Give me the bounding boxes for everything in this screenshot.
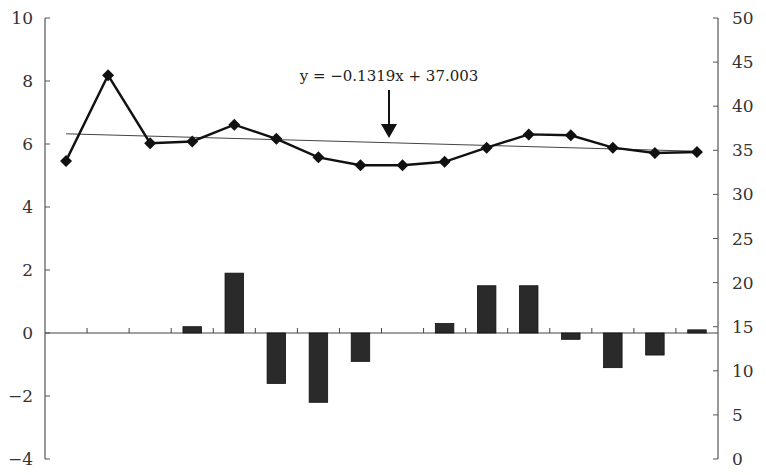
diamond-marker-icon [565,129,577,141]
arrow-down-icon [381,124,397,138]
bar [351,333,370,361]
right-axis-tick-label: 35 [732,140,754,160]
bar [267,333,286,383]
right-axis-tick-label: 25 [732,229,754,249]
left-axis-tick-label: 2 [22,260,33,280]
combo-chart: 1086420−2−4 50454035302520151050 y = −0.… [0,0,766,475]
zero-baseline [45,328,718,333]
line-path [66,75,697,165]
right-axis-tick-label: 15 [732,317,754,337]
diamond-marker-icon [607,142,619,154]
bar [519,286,538,333]
right-axis-tick-label: 40 [732,96,754,116]
diamond-marker-icon [481,142,493,154]
diamond-marker-icon [144,137,156,149]
left-axis-tick-label: 6 [22,134,33,154]
bar [646,333,665,355]
bar [688,330,707,333]
diamond-marker-icon [102,69,114,81]
bar-series [183,273,706,402]
diamond-marker-icon [312,151,324,163]
diamond-marker-icon [691,146,703,158]
diamond-marker-icon [439,156,451,168]
bar [562,333,581,339]
diamond-marker-icon [60,155,72,167]
bar [604,333,623,368]
diamond-marker-icon [354,159,366,171]
diamond-marker-icon [397,159,409,171]
right-axis-tick-label: 5 [732,405,743,425]
bar [183,327,202,333]
left-axis-tick-label: −4 [8,449,33,469]
right-axis-tick-label: 45 [732,52,754,72]
trendline-equation-annotation: y = −0.1319x + 37.003 [299,67,479,138]
left-axis-tick-label: 10 [11,8,33,28]
right-axis-tick-label: 20 [732,273,754,293]
left-axis-tick-label: 0 [22,323,33,343]
right-axis-tick-label: 50 [732,8,754,28]
bar [435,324,454,333]
diamond-marker-icon [228,119,240,131]
diamond-marker-icon [649,147,661,159]
right-axis-tick-label: 10 [732,361,754,381]
bar [225,273,244,333]
diamond-marker-icon [523,128,535,140]
left-axis-tick-label: −2 [8,386,33,406]
trendline-equation: y = −0.1319x + 37.003 [299,67,479,85]
left-axis-tick-label: 8 [22,71,33,91]
right-axis-tick-label: 30 [732,184,754,204]
bar [309,333,328,402]
left-y-axis: 1086420−2−4 [8,8,50,469]
right-axis-tick-label: 0 [732,449,743,469]
right-y-axis: 50454035302520151050 [713,8,754,469]
diamond-marker-icon [270,133,282,145]
left-axis-tick-label: 4 [22,197,33,217]
bar [477,286,496,333]
